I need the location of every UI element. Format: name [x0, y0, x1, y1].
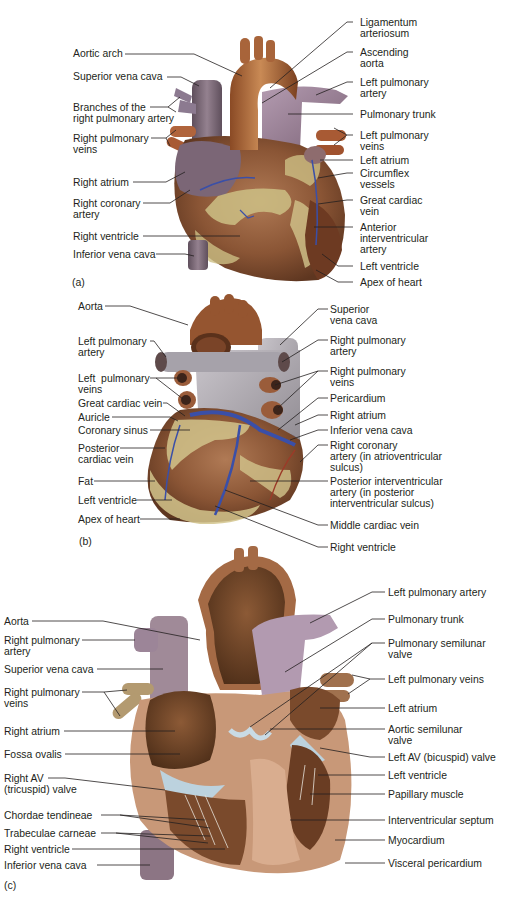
- label-left-pulmonary-veins: Left pulmonaryveins: [78, 373, 150, 395]
- label-fossa-ovalis: Fossa ovalis: [4, 749, 62, 760]
- label-ascending-aorta: Ascendingaorta: [360, 47, 409, 69]
- label-aorta: Aorta: [4, 616, 29, 627]
- panel-tag-a: (a): [72, 276, 85, 288]
- label-aortic-arch: Aortic arch: [73, 48, 123, 59]
- label-superior-vena-cava: Superior vena cava: [73, 71, 163, 82]
- label-aorta: Aorta: [78, 301, 103, 312]
- label-apex-of-heart: Apex of heart: [78, 514, 140, 525]
- label-superior-vena-cava: Superior vena cava: [4, 664, 94, 675]
- label-pericardium: Pericardium: [330, 393, 385, 404]
- label-ligamentum-arteriosum: Ligamentumarteriosum: [360, 17, 417, 39]
- label-right-coronary-artery: Right coronaryartery (in atrioventricula…: [330, 440, 442, 473]
- label-left-ventricle: Left ventricle: [360, 261, 419, 272]
- label-left-ventricle: Left ventricle: [388, 770, 447, 781]
- label-auricle: Auricle: [78, 412, 110, 423]
- label-right-atrium: Right atrium: [73, 177, 129, 188]
- label-chordae-tendineae: Chordae tendineae: [4, 810, 92, 821]
- label-right-pulmonary-artery: Right pulmonaryartery: [330, 335, 406, 357]
- heart-anatomy-figure: Aortic arch Superior vena cava Branches …: [0, 0, 513, 907]
- label-right-pulmonary-veins: Right pulmonaryveins: [4, 687, 80, 709]
- label-pulmonary-trunk: Pulmonary trunk: [360, 109, 436, 120]
- label-left-pulmonary-veins: Left pulmonary veins: [388, 674, 484, 685]
- label-middle-cardiac-vein: Middle cardiac vein: [330, 520, 419, 531]
- label-pulmonary-semilunar-valve: Pulmonary semilunarvalve: [388, 638, 486, 660]
- label-right-ventricle: Right ventricle: [73, 231, 139, 242]
- label-left-av-bicuspid-valve: Left AV (bicuspid) valve: [388, 752, 496, 763]
- label-left-atrium: Left atrium: [388, 703, 437, 714]
- label-papillary-muscle: Papillary muscle: [388, 789, 464, 800]
- label-right-ventricle: Right ventricle: [330, 542, 396, 553]
- label-apex-of-heart: Apex of heart: [360, 277, 422, 288]
- panel-a-heart: [165, 36, 348, 281]
- label-coronary-sinus: Coronary sinus: [78, 425, 148, 436]
- label-inferior-vena-cava: Inferior vena cava: [4, 860, 87, 871]
- label-right-pulmonary-veins: Right pulmonaryveins: [73, 133, 149, 155]
- label-left-pulmonary-artery: Left pulmonaryartery: [360, 77, 429, 99]
- label-right-ventricle: Right ventricle: [4, 844, 70, 855]
- label-myocardium: Myocardium: [388, 835, 445, 846]
- label-aortic-semilunar-valve: Aortic semilunarvalve: [388, 724, 463, 746]
- label-great-cardiac-vein: Great cardiac vein: [78, 398, 162, 409]
- panel-tag-c: (c): [4, 879, 16, 891]
- label-interventricular-septum: Interventricular septum: [388, 815, 494, 826]
- label-fat: Fat: [78, 476, 93, 487]
- label-visceral-pericardium: Visceral pericardium: [388, 858, 482, 869]
- label-posterior-cardiac-vein: Posteriorcardiac vein: [78, 443, 133, 465]
- label-inferior-vena-cava: Inferior vena cava: [73, 249, 156, 260]
- panel-c-heart: [110, 546, 354, 880]
- label-left-atrium: Left atrium: [360, 155, 409, 166]
- label-circumflex-vessels: Circumflexvessels: [360, 168, 409, 190]
- label-left-pulmonary-artery: Left pulmonaryartery: [78, 336, 147, 358]
- label-great-cardiac-vein: Great cardiacvein: [360, 195, 422, 217]
- label-pulmonary-trunk: Pulmonary trunk: [388, 614, 464, 625]
- label-right-coronary-artery: Right coronaryartery: [73, 198, 141, 220]
- label-left-pulmonary-veins: Left pulmonaryveins: [360, 130, 429, 152]
- label-superior-vena-cava: Superiorvena cava: [330, 304, 377, 326]
- label-branches-right-pulmonary-artery: Branches of theright pulmonary artery: [73, 102, 174, 124]
- label-right-atrium: Right atrium: [330, 410, 386, 421]
- panel-tag-b: (b): [79, 535, 92, 547]
- label-posterior-interventricular-artery: Posterior interventricularartery (in pos…: [330, 476, 443, 509]
- label-trabeculae-carneae: Trabeculae carneae: [4, 828, 96, 839]
- label-right-av-tricuspid-valve: Right AV(tricuspid) valve: [4, 773, 77, 795]
- label-inferior-vena-cava: Inferior vena cava: [330, 425, 413, 436]
- label-left-pulmonary-artery: Left pulmonary artery: [388, 587, 486, 598]
- label-left-ventricle: Left ventricle: [78, 495, 137, 506]
- label-right-pulmonary-artery: Right pulmonaryartery: [4, 635, 80, 657]
- label-right-atrium: Right atrium: [4, 726, 60, 737]
- panel-b-heart: [148, 294, 304, 524]
- label-right-pulmonary-veins: Right pulmonaryveins: [330, 366, 406, 388]
- label-anterior-interventricular-artery: Anteriorinterventricularartery: [360, 222, 428, 255]
